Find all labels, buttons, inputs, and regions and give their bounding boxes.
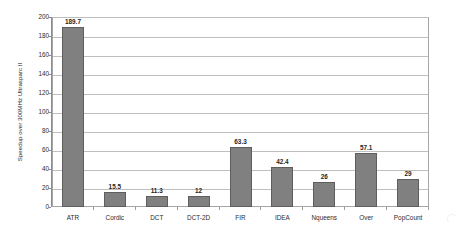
y-axis-tick-mark: [48, 36, 51, 37]
x-axis-tick-cell: [52, 207, 94, 211]
bar-series-group: 189.715.511.31263.342.42657.129: [52, 17, 429, 207]
y-axis-tick-label: 40: [22, 165, 49, 173]
y-axis-tick-mark: [48, 55, 51, 56]
bar-chart-figure: Speedup over 300MHz Ultrasparc II 200180…: [0, 0, 463, 242]
bar: [104, 192, 126, 207]
bar-group: 42.4: [261, 17, 303, 207]
bar-value-label: 12: [178, 187, 220, 195]
y-axis-tick-label: 80: [22, 127, 49, 135]
bar: [355, 153, 377, 207]
y-axis-tick-label-group: 200180160140120100806040200: [22, 11, 49, 213]
bar-group: 12: [178, 17, 220, 207]
y-axis-tick-mark: [48, 93, 51, 94]
y-axis-tick-mark: [48, 207, 51, 208]
bar: [188, 196, 210, 207]
bar-group: 11.3: [136, 17, 178, 207]
y-axis-tick-mark: [48, 150, 51, 151]
y-axis-tick-label: 200: [22, 13, 49, 21]
y-axis-tick-label: 180: [22, 32, 49, 40]
y-axis-tick-label: 160: [22, 51, 49, 59]
x-axis-tick-cell: [178, 207, 220, 211]
bar-value-label: 57.1: [345, 144, 387, 152]
scan-artifact: [447, 214, 457, 224]
x-axis-tick-label: Nqueens: [303, 213, 345, 225]
x-axis-tick-label: ATR: [52, 213, 94, 225]
y-axis-tick-mark: [48, 188, 51, 189]
y-axis-tick-label: 60: [22, 146, 49, 154]
y-axis-tick-mark: [48, 169, 51, 170]
bar-value-label: 29: [387, 170, 429, 178]
bar: [313, 182, 335, 207]
y-axis-tick-label: 20: [22, 184, 49, 192]
y-axis-tick-label: 120: [22, 89, 49, 97]
x-axis-tick-cell: [345, 207, 387, 211]
x-axis-tick-cell: [387, 207, 429, 211]
bar: [62, 27, 84, 207]
bar-group: 57.1: [345, 17, 387, 207]
bar-group: 63.3: [220, 17, 262, 207]
x-axis-tick-mark-group: [52, 207, 429, 211]
x-axis-tick-mark: [428, 207, 429, 210]
y-axis-tick-mark: [48, 131, 51, 132]
y-axis-tick-mark: [48, 112, 51, 113]
x-axis-tick-cell: [220, 207, 262, 211]
bar: [146, 196, 168, 207]
y-axis-tick-mark: [48, 74, 51, 75]
bar: [230, 147, 252, 207]
x-axis-tick-label-group: ATRCordicDCTDCT-2DFIRIDEANqueensOverPopC…: [52, 213, 429, 225]
bar: [397, 179, 419, 207]
y-axis-tick-label: 140: [22, 70, 49, 78]
bar-value-label: 42.4: [261, 158, 303, 166]
bar-group: 15.5: [94, 17, 136, 207]
x-axis-tick-label: Cordic: [94, 213, 136, 225]
bar-value-label: 11.3: [136, 187, 178, 195]
x-axis-tick-cell: [303, 207, 345, 211]
bar-value-label: 15.5: [94, 183, 136, 191]
bar-group: 189.7: [52, 17, 94, 207]
bar-value-label: 26: [303, 173, 345, 181]
x-axis-tick-cell: [136, 207, 178, 211]
bar-group: 26: [303, 17, 345, 207]
y-axis-tick-label: 0: [22, 203, 49, 211]
bar: [271, 167, 293, 207]
bar-group: 29: [387, 17, 429, 207]
x-axis-tick-label: PopCount: [387, 213, 429, 225]
x-axis-tick-label: DCT: [136, 213, 178, 225]
x-axis-tick-cell: [261, 207, 303, 211]
y-axis-tick-mark: [48, 17, 51, 18]
x-axis-tick-label: DCT-2D: [178, 213, 220, 225]
x-axis-tick-cell: [94, 207, 136, 211]
x-axis-tick-label: FIR: [220, 213, 262, 225]
x-axis-tick-label: IDEA: [261, 213, 303, 225]
y-axis-tick-label: 100: [22, 108, 49, 116]
bar-value-label: 63.3: [220, 138, 262, 146]
x-axis-tick-label: Over: [345, 213, 387, 225]
bar-value-label: 189.7: [52, 18, 94, 26]
